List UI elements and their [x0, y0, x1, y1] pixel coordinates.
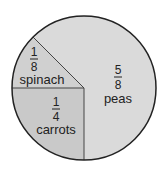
spinach-name: spinach [20, 72, 65, 87]
carrots-numerator: 1 [53, 95, 60, 109]
spinach-numerator: 1 [31, 45, 38, 59]
peas-numerator: 5 [115, 63, 122, 77]
carrots-name: carrots [36, 122, 76, 137]
peas-name: peas [104, 91, 133, 106]
pie-chart: 1 8 spinach 1 4 carrots 5 8 peas [0, 0, 166, 172]
peas-denominator: 8 [115, 78, 122, 92]
